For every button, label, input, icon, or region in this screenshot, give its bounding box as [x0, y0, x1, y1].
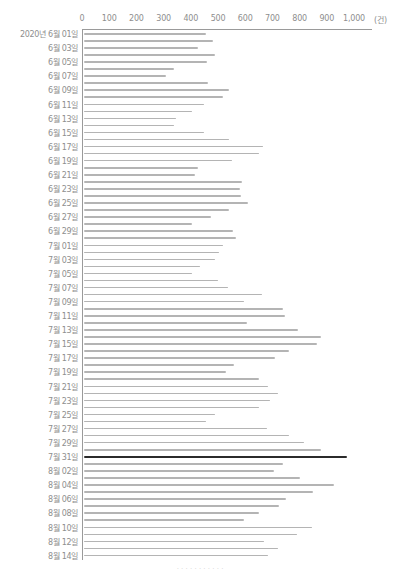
bar — [84, 287, 228, 289]
x-tick-label: 100 — [102, 14, 117, 23]
bar — [84, 527, 312, 529]
y-tick-label: 7월 15일 — [48, 338, 78, 349]
bar — [84, 407, 259, 409]
bar — [84, 237, 236, 239]
x-axis-unit: (건) — [374, 14, 387, 25]
bar — [84, 280, 218, 282]
bar — [84, 498, 286, 500]
bar — [84, 555, 268, 557]
y-axis-line — [82, 29, 83, 560]
y-tick-label: 8월 02일 — [48, 465, 78, 476]
bar — [84, 223, 192, 225]
x-tick-label: 300 — [156, 14, 171, 23]
y-tick-label: 6월 15일 — [48, 126, 78, 137]
y-tick-label: 6월 17일 — [48, 140, 78, 151]
bar — [84, 343, 317, 345]
bar — [84, 350, 289, 352]
bar — [84, 104, 204, 106]
y-tick-label: 7월 19일 — [48, 366, 78, 377]
bar — [84, 216, 211, 218]
y-tick-label: 6월 29일 — [48, 225, 78, 236]
bar — [84, 378, 259, 380]
bar — [84, 266, 200, 268]
bar — [84, 153, 259, 155]
y-tick-label: 8월 10일 — [48, 521, 78, 532]
bar — [84, 202, 248, 204]
y-tick-label: 8월 06일 — [48, 493, 78, 504]
bar — [84, 414, 215, 416]
bar — [84, 386, 268, 388]
y-tick-label: 8월 04일 — [48, 479, 78, 490]
bar — [84, 75, 166, 77]
bar — [84, 534, 297, 536]
bar — [84, 181, 242, 183]
y-tick-label: 6월 23일 — [48, 183, 78, 194]
y-tick-label: 6월 19일 — [48, 154, 78, 165]
x-tick-label: 800 — [292, 14, 307, 23]
bar — [84, 188, 240, 190]
bar — [84, 230, 233, 232]
y-tick-label: 6월 25일 — [48, 197, 78, 208]
x-tick-label: 1,000 — [343, 14, 365, 23]
y-tick-label: 7월 17일 — [48, 352, 78, 363]
y-tick-label: 6월 07일 — [48, 70, 78, 81]
bar — [84, 259, 215, 261]
bar — [84, 294, 262, 296]
x-tick-label: 0 — [80, 14, 85, 23]
bar — [84, 132, 204, 134]
bar — [84, 111, 192, 113]
bar — [84, 484, 334, 486]
bar — [84, 519, 244, 521]
y-tick-label: 7월 05일 — [48, 267, 78, 278]
bar — [84, 470, 274, 472]
bar — [84, 33, 206, 35]
y-tick-label: 7월 31일 — [48, 451, 78, 462]
bar — [84, 174, 195, 176]
bar — [84, 428, 267, 430]
bar — [84, 61, 207, 63]
bar — [84, 301, 244, 303]
bar — [84, 47, 198, 49]
y-tick-label: 7월 09일 — [48, 295, 78, 306]
x-tick-label: 600 — [238, 14, 253, 23]
y-tick-label: 6월 03일 — [48, 42, 78, 53]
x-tick-label: 500 — [211, 14, 226, 23]
bar — [84, 167, 198, 169]
x-tick-label: 900 — [319, 14, 334, 23]
bar — [84, 491, 313, 493]
y-tick-label: 6월 09일 — [48, 84, 78, 95]
bar — [84, 139, 229, 141]
y-tick-label: 8월 12일 — [48, 535, 78, 546]
bar — [84, 442, 304, 444]
bar — [84, 68, 174, 70]
y-tick-label: 7월 21일 — [48, 380, 78, 391]
y-tick-label: 7월 01일 — [48, 239, 78, 250]
bar — [84, 96, 223, 98]
bar — [84, 371, 226, 373]
bar — [84, 160, 232, 162]
y-tick-label: 7월 11일 — [48, 310, 78, 321]
y-tick-label: 6월 05일 — [48, 56, 78, 67]
bar — [84, 125, 174, 127]
bar — [84, 209, 229, 211]
bar-highlighted — [84, 456, 347, 458]
bar — [84, 548, 278, 550]
y-tick-label: 6월 11일 — [48, 98, 78, 109]
y-tick-label: 7월 23일 — [48, 394, 78, 405]
y-tick-label: 7월 03일 — [48, 253, 78, 264]
x-tick-label: 200 — [129, 14, 144, 23]
bar — [84, 541, 264, 543]
figure-caption: · · · · · · · · · · · — [0, 565, 400, 573]
bar — [84, 435, 289, 437]
bar — [84, 308, 283, 310]
bar — [84, 89, 229, 91]
y-tick-label: 7월 27일 — [48, 422, 78, 433]
y-tick-label: 6월 27일 — [48, 211, 78, 222]
y-tick-label: 8월 14일 — [48, 549, 78, 560]
x-tick-label: 700 — [265, 14, 280, 23]
y-tick-label: 7월 13일 — [48, 324, 78, 335]
bar — [84, 393, 278, 395]
bar — [84, 463, 283, 465]
bar — [84, 400, 270, 402]
horizontal-bar-chart: 01002003004005006007008009001,000 (건) 20… — [0, 0, 400, 578]
